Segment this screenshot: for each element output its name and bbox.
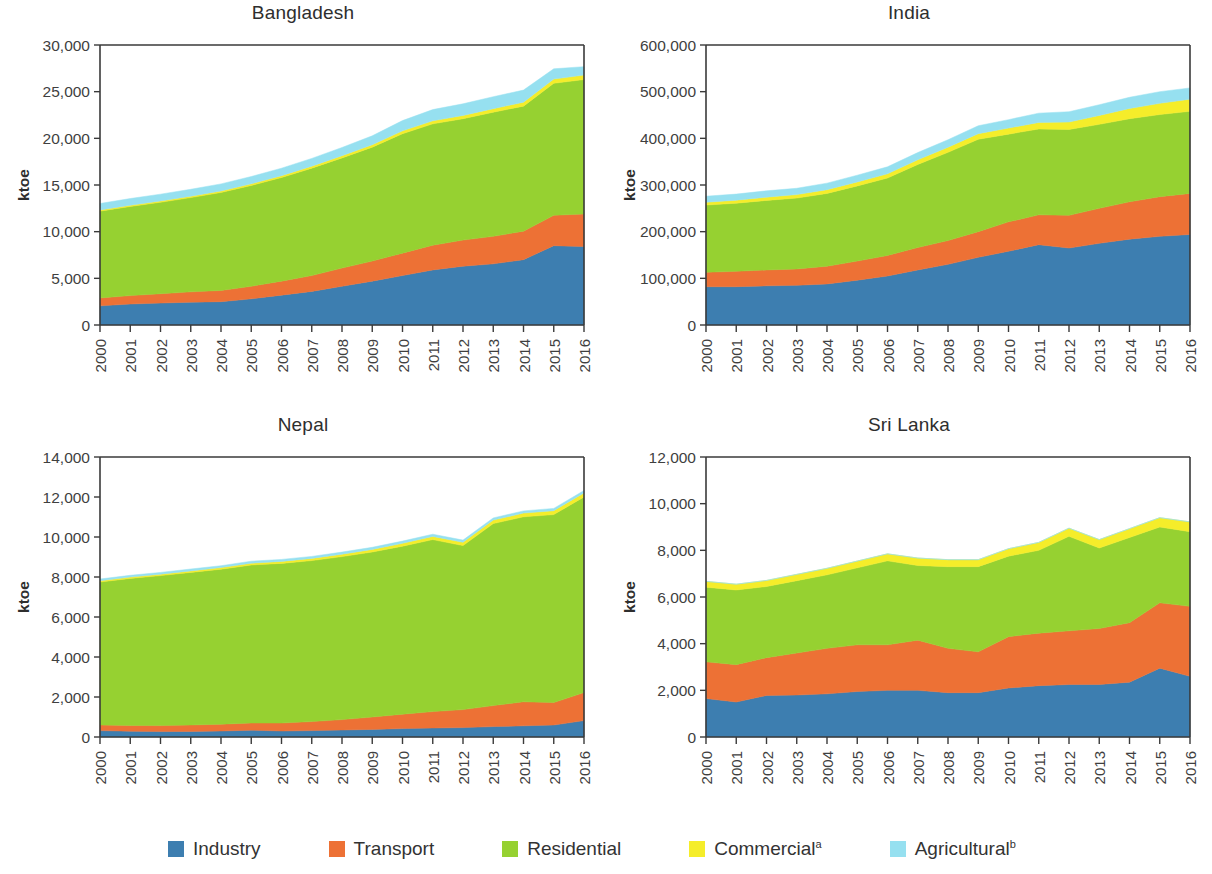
x-tick-label: 2002 xyxy=(759,751,776,784)
x-tick-label: 2002 xyxy=(153,751,170,784)
x-tick-label: 2010 xyxy=(395,339,412,372)
chart-svg-bangladesh: 05,00010,00015,00020,00025,00030,000ktoe… xyxy=(0,0,606,412)
x-tick-label: 2011 xyxy=(1031,339,1048,371)
x-tick-label: 2000 xyxy=(698,751,715,784)
x-tick-label: 2005 xyxy=(849,339,866,372)
chart-panel-bangladesh: Bangladesh 05,00010,00015,00020,00025,00… xyxy=(0,0,606,412)
chart-legend: Industry Transport Residential Commercia… xyxy=(0,824,1212,874)
x-tick-label: 2008 xyxy=(940,339,957,372)
x-tick-label: 2014 xyxy=(1122,751,1139,784)
x-tick-label: 2011 xyxy=(1031,751,1048,783)
x-tick-label: 2006 xyxy=(880,339,897,372)
y-tick-label: 2,000 xyxy=(51,689,90,706)
x-tick-label: 2016 xyxy=(1182,751,1199,784)
y-tick-label: 6,000 xyxy=(657,589,696,606)
chart-svg-nepal: 02,0004,0006,0008,00010,00012,00014,000k… xyxy=(0,412,606,824)
legend-item-commercial: Commerciala xyxy=(689,838,821,860)
y-tick-label: 20,000 xyxy=(43,130,91,147)
x-tick-label: 2002 xyxy=(153,339,170,372)
x-tick-label: 2014 xyxy=(516,339,533,372)
x-tick-label: 2003 xyxy=(183,339,200,372)
x-tick-label: 2005 xyxy=(849,751,866,784)
y-tick-label: 8,000 xyxy=(657,542,696,559)
x-tick-label: 2013 xyxy=(485,751,502,784)
y-tick-label: 10,000 xyxy=(43,223,91,240)
chart-panel-india: India 0100,000200,000300,000400,000500,0… xyxy=(606,0,1212,412)
y-tick-label: 10,000 xyxy=(649,495,697,512)
x-tick-label: 2000 xyxy=(92,339,109,372)
x-tick-label: 2000 xyxy=(92,751,109,784)
x-tick-label: 2008 xyxy=(940,751,957,784)
x-tick-label: 2003 xyxy=(789,339,806,372)
x-tick-label: 2009 xyxy=(970,751,987,784)
x-tick-label: 2015 xyxy=(546,751,563,784)
x-tick-label: 2003 xyxy=(789,751,806,784)
x-tick-label: 2011 xyxy=(425,339,442,371)
x-tick-label: 2014 xyxy=(1122,339,1139,372)
y-tick-label: 12,000 xyxy=(43,489,91,506)
x-tick-label: 2013 xyxy=(1091,751,1108,784)
y-tick-label: 4,000 xyxy=(51,649,90,666)
y-tick-label: 15,000 xyxy=(43,177,91,194)
x-tick-label: 2008 xyxy=(334,339,351,372)
y-tick-label: 400,000 xyxy=(640,130,696,147)
x-tick-label: 2011 xyxy=(425,751,442,783)
legend-label-transport: Transport xyxy=(354,838,435,860)
legend-item-industry: Industry xyxy=(168,838,261,860)
charts-grid: Bangladesh 05,00010,00015,00020,00025,00… xyxy=(0,0,1212,824)
x-tick-label: 2001 xyxy=(122,751,139,784)
legend-label-residential: Residential xyxy=(527,838,621,860)
legend-label-commercial: Commerciala xyxy=(714,838,821,860)
y-tick-label: 10,000 xyxy=(43,529,91,546)
chart-svg-india: 0100,000200,000300,000400,000500,000600,… xyxy=(606,0,1212,412)
x-tick-label: 2005 xyxy=(243,751,260,784)
y-tick-label: 500,000 xyxy=(640,83,696,100)
x-tick-label: 2004 xyxy=(213,339,230,372)
x-tick-label: 2014 xyxy=(516,751,533,784)
x-tick-label: 2016 xyxy=(576,751,593,784)
x-tick-label: 2002 xyxy=(759,339,776,372)
chart-svg-sri-lanka: 02,0004,0006,0008,00010,00012,000ktoe200… xyxy=(606,412,1212,824)
y-tick-label: 200,000 xyxy=(640,223,696,240)
y-tick-label: 300,000 xyxy=(640,177,696,194)
y-tick-label: 0 xyxy=(687,729,696,746)
x-tick-label: 2007 xyxy=(304,339,321,372)
y-tick-label: 6,000 xyxy=(51,609,90,626)
x-tick-label: 2004 xyxy=(819,339,836,372)
x-tick-label: 2016 xyxy=(1182,339,1199,372)
stacked-area-chart-figure: Bangladesh 05,00010,00015,00020,00025,00… xyxy=(0,0,1212,874)
x-tick-label: 2005 xyxy=(243,339,260,372)
legend-item-agricultural: Agriculturalb xyxy=(890,838,1016,860)
legend-label-industry: Industry xyxy=(193,838,261,860)
y-tick-label: 0 xyxy=(687,317,696,334)
x-tick-label: 2013 xyxy=(1091,339,1108,372)
x-tick-label: 2010 xyxy=(1001,751,1018,784)
x-tick-label: 2015 xyxy=(1152,751,1169,784)
y-tick-label: 100,000 xyxy=(640,270,696,287)
y-tick-label: 12,000 xyxy=(649,449,697,466)
x-tick-label: 2016 xyxy=(576,339,593,372)
legend-label-agricultural: Agriculturalb xyxy=(915,838,1016,860)
x-tick-label: 2012 xyxy=(455,751,472,784)
x-tick-label: 2006 xyxy=(274,339,291,372)
y-axis-label: ktoe xyxy=(15,581,32,613)
x-tick-label: 2003 xyxy=(183,751,200,784)
chart-panel-sri-lanka: Sri Lanka 02,0004,0006,0008,00010,00012,… xyxy=(606,412,1212,824)
y-tick-label: 14,000 xyxy=(43,449,91,466)
x-tick-label: 2001 xyxy=(122,339,139,372)
y-tick-label: 5,000 xyxy=(51,270,90,287)
y-tick-label: 4,000 xyxy=(657,635,696,652)
y-tick-label: 30,000 xyxy=(43,37,91,54)
x-tick-label: 2013 xyxy=(485,339,502,372)
chart-panel-nepal: Nepal 02,0004,0006,0008,00010,00012,0001… xyxy=(0,412,606,824)
x-tick-label: 2009 xyxy=(364,339,381,372)
legend-item-transport: Transport xyxy=(329,838,435,860)
legend-swatch-industry xyxy=(168,841,184,857)
x-tick-label: 2012 xyxy=(1061,339,1078,372)
x-tick-label: 2007 xyxy=(304,751,321,784)
x-tick-label: 2010 xyxy=(395,751,412,784)
y-axis-label: ktoe xyxy=(621,169,638,201)
y-tick-label: 600,000 xyxy=(640,37,696,54)
x-tick-label: 2008 xyxy=(334,751,351,784)
x-tick-label: 2007 xyxy=(910,339,927,372)
